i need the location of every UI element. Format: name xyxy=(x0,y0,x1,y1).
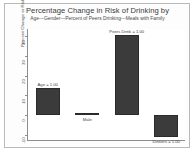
bar-label: Dinners = 1.00 xyxy=(142,139,191,144)
chart-figure: Percentage Change in Risk of Drinking by… xyxy=(0,0,195,152)
bar-label: Male xyxy=(63,117,112,122)
bar xyxy=(75,113,99,115)
y-tick-label: 40 xyxy=(21,36,26,48)
y-tick-label: -10 xyxy=(21,135,26,147)
bar-label: Age = 1.00 xyxy=(23,82,72,87)
bar xyxy=(154,115,178,137)
y-tick-label: 30 xyxy=(21,56,26,68)
bar xyxy=(36,88,60,116)
plot-area: Percent Change in Risk -10010203040 Age … xyxy=(27,29,185,141)
y-tick-label: 0 xyxy=(21,115,26,127)
y-tick-label: 10 xyxy=(21,95,26,107)
bar-label: Peers Drink = 1.00 xyxy=(102,29,151,34)
bars-layer: Age = 1.00MalePeers Drink = 1.00Dinners … xyxy=(28,29,185,140)
bar xyxy=(115,35,139,116)
